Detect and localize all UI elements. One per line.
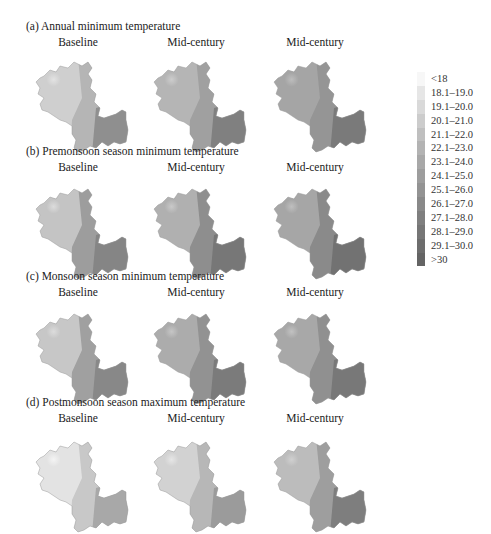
legend-swatch xyxy=(417,114,425,128)
column-label: Mid-century xyxy=(136,161,256,173)
region-map xyxy=(268,58,368,154)
legend-swatch xyxy=(417,253,425,267)
legend-swatch xyxy=(417,141,425,155)
region-map xyxy=(30,185,130,281)
legend-swatch xyxy=(417,169,425,183)
legend-label: 21.1–22.0 xyxy=(431,128,473,142)
legend-swatch xyxy=(417,72,425,86)
legend-swatch xyxy=(417,197,425,211)
region-map xyxy=(268,310,368,406)
region-map xyxy=(30,58,130,154)
legend-label: <18 xyxy=(431,72,447,86)
legend-label: 20.1–21.0 xyxy=(431,114,473,128)
column-label: Mid-century xyxy=(136,36,256,48)
column-label: Baseline xyxy=(18,286,138,298)
region-map xyxy=(30,310,130,406)
legend-swatch xyxy=(417,211,425,225)
region-map xyxy=(148,438,248,534)
legend-swatch xyxy=(417,183,425,197)
legend-swatch xyxy=(417,100,425,114)
region-map xyxy=(148,310,248,406)
panel-title: (c) Monsoon season minimum temperature xyxy=(26,270,224,282)
legend-label: 27.1–28.0 xyxy=(431,211,473,225)
region-map xyxy=(148,58,248,154)
region-map xyxy=(30,438,130,534)
panel-title: (b) Premonsoon season minimum temperatur… xyxy=(26,145,239,157)
region-map xyxy=(148,185,248,281)
legend-swatch xyxy=(417,225,425,239)
region-map xyxy=(268,185,368,281)
legend-label: 25.1–26.0 xyxy=(431,183,473,197)
legend-label: 28.1–29.0 xyxy=(431,225,473,239)
legend-swatch xyxy=(417,128,425,142)
column-label: Mid-century xyxy=(255,36,375,48)
column-label: Baseline xyxy=(18,161,138,173)
column-label: Mid-century xyxy=(255,286,375,298)
column-label: Mid-century xyxy=(255,161,375,173)
column-label: Mid-century xyxy=(136,412,256,424)
legend-label: >30 xyxy=(431,253,447,267)
legend-label: 23.1–24.0 xyxy=(431,155,473,169)
legend-swatch xyxy=(417,86,425,100)
legend-label: 22.1–23.0 xyxy=(431,141,473,155)
panel-title: (a) Annual minimum temperature xyxy=(26,20,180,32)
legend-label: 19.1–20.0 xyxy=(431,100,473,114)
column-label: Baseline xyxy=(18,412,138,424)
legend-label: 24.1–25.0 xyxy=(431,169,473,183)
legend-label: 29.1–30.0 xyxy=(431,239,473,253)
legend-label: 26.1–27.0 xyxy=(431,197,473,211)
legend-label: 18.1–19.0 xyxy=(431,86,473,100)
legend-swatch xyxy=(417,155,425,169)
region-map xyxy=(268,438,368,534)
column-label: Baseline xyxy=(18,36,138,48)
panel-title: (d) Postmonsoon season maximum temperatu… xyxy=(26,396,245,408)
column-label: Mid-century xyxy=(255,412,375,424)
column-label: Mid-century xyxy=(136,286,256,298)
legend-swatch xyxy=(417,239,425,253)
